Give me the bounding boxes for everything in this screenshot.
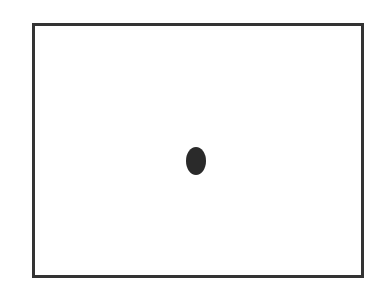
center-dot <box>186 147 206 175</box>
